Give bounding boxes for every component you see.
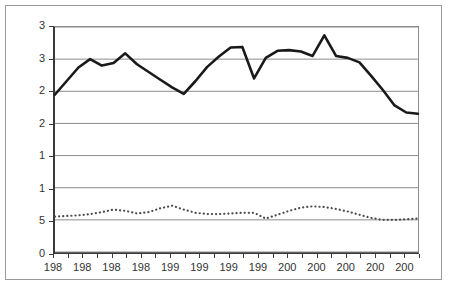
x-tick-mark xyxy=(170,254,171,258)
x-tick-mark xyxy=(404,254,405,258)
figure-frame: 33221150 1981981981981991991991992002002… xyxy=(5,5,442,280)
y-tick-mark xyxy=(49,59,53,60)
y-tick-label: 1 xyxy=(5,150,45,161)
y-tick-mark xyxy=(49,221,53,222)
x-tick-mark xyxy=(302,254,303,258)
y-tick-mark xyxy=(49,156,53,157)
y-tick-mark xyxy=(49,124,53,125)
y-tick-mark xyxy=(49,91,53,92)
x-tick-mark xyxy=(419,254,420,258)
x-tick-mark xyxy=(185,254,186,258)
series-line-solid xyxy=(55,35,418,113)
x-tick-mark xyxy=(141,254,142,258)
x-tick-mark xyxy=(390,254,391,258)
x-tick-mark xyxy=(243,254,244,258)
x-tick-mark xyxy=(317,254,318,258)
y-tick-label: 3 xyxy=(5,20,45,31)
x-tick-mark xyxy=(53,254,54,258)
y-tick-label: 3 xyxy=(5,53,45,64)
x-tick-mark xyxy=(214,254,215,258)
plot-area xyxy=(53,26,419,254)
y-tick-mark xyxy=(49,26,53,27)
x-tick-mark xyxy=(82,254,83,258)
chart-screenshot: 33221150 1981981981981991991991992002002… xyxy=(0,0,450,288)
x-tick-mark xyxy=(97,254,98,258)
x-tick-mark xyxy=(112,254,113,258)
x-tick-mark xyxy=(287,254,288,258)
x-tick-mark xyxy=(331,254,332,258)
x-tick-mark xyxy=(155,254,156,258)
x-tick-mark xyxy=(273,254,274,258)
gridlines-group xyxy=(55,27,418,252)
y-tick-label: 5 xyxy=(5,215,45,226)
y-tick-mark xyxy=(49,189,53,190)
y-tick-label: 2 xyxy=(5,118,45,129)
x-tick-mark xyxy=(360,254,361,258)
x-tick-mark xyxy=(68,254,69,258)
y-tick-label: 2 xyxy=(5,85,45,96)
y-tick-label: 1 xyxy=(5,183,45,194)
x-tick-mark xyxy=(126,254,127,258)
series-line-dotted xyxy=(55,206,418,220)
x-tick-mark xyxy=(199,254,200,258)
x-tick-mark xyxy=(229,254,230,258)
x-tick-mark xyxy=(258,254,259,258)
y-tick-label: 0 xyxy=(5,248,45,259)
x-tick-label: 200 xyxy=(384,262,424,273)
x-tick-mark xyxy=(375,254,376,258)
plot-svg xyxy=(55,27,418,252)
x-tick-mark xyxy=(346,254,347,258)
